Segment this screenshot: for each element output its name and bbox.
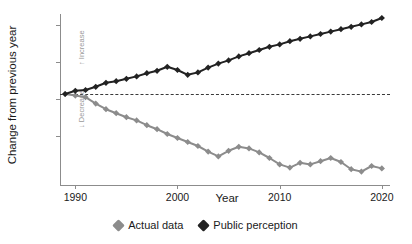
data-point [246, 145, 252, 151]
data-point [174, 67, 180, 73]
series-public-perception [62, 15, 385, 97]
data-point [215, 61, 221, 67]
data-point [266, 44, 272, 50]
x-axis-title: Year [0, 192, 412, 204]
chart-figure: Change from previous year ↑ Increase↓ De… [0, 0, 412, 244]
y-axis-title-text: Change from previous year [6, 26, 18, 165]
data-point [358, 21, 364, 27]
data-point [317, 158, 323, 164]
data-point [62, 91, 68, 97]
data-point [348, 24, 354, 30]
data-point [82, 87, 88, 93]
data-point [338, 26, 344, 32]
data-point [236, 53, 242, 59]
data-point [113, 78, 119, 84]
x-axis-tick [75, 185, 76, 189]
data-point [144, 70, 150, 76]
chart-legend: Actual dataPublic perception [0, 219, 412, 231]
data-point [185, 139, 191, 145]
data-point [225, 57, 231, 63]
x-axis-tick [177, 185, 178, 189]
data-point [287, 165, 293, 171]
data-point [307, 33, 313, 39]
data-point [297, 160, 303, 166]
data-point [185, 72, 191, 78]
data-point [297, 36, 303, 42]
data-point [123, 114, 129, 120]
series-layer [60, 14, 390, 186]
series-actual-data [62, 91, 385, 175]
data-point [123, 76, 129, 82]
data-point [164, 131, 170, 137]
data-point [174, 135, 180, 141]
x-axis-tick [280, 185, 281, 189]
data-point [307, 161, 313, 167]
x-axis-tick [382, 185, 383, 189]
data-point [328, 155, 334, 161]
y-axis-title: Change from previous year [2, 0, 22, 190]
data-point [236, 144, 242, 150]
data-point [246, 50, 252, 56]
data-point [103, 80, 109, 86]
data-point [113, 110, 119, 116]
data-point [317, 31, 323, 37]
data-point [144, 122, 150, 128]
series-line [65, 94, 382, 172]
data-point [287, 38, 293, 44]
data-point [93, 84, 99, 90]
data-point [328, 29, 334, 35]
data-point [379, 15, 385, 21]
data-point [256, 47, 262, 53]
data-point [205, 65, 211, 71]
legend-label: Public perception [213, 219, 297, 231]
x-axis-title-text: Year [173, 192, 238, 204]
data-point [164, 64, 170, 70]
legend-item[interactable]: Actual data [114, 219, 183, 231]
legend-marker-icon [112, 219, 125, 232]
data-point [154, 68, 160, 74]
series-line [65, 18, 382, 94]
data-point [154, 126, 160, 132]
data-point [134, 73, 140, 79]
data-point [72, 88, 78, 94]
data-point [379, 165, 385, 171]
data-point [369, 19, 375, 25]
legend-label: Actual data [128, 219, 183, 231]
data-point [134, 117, 140, 123]
plot-area: ↑ Increase↓ Decrease 1990200020102020 [60, 14, 390, 186]
data-point [277, 41, 283, 47]
data-point [195, 69, 201, 75]
legend-marker-icon [197, 219, 210, 232]
legend-item[interactable]: Public perception [199, 219, 297, 231]
